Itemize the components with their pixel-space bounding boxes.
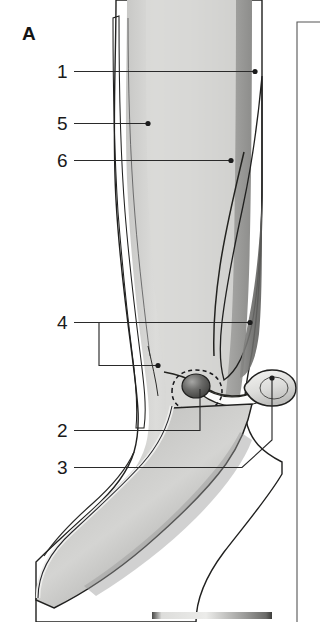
panel-letter-a: A — [22, 23, 36, 44]
leader-dot-3 — [269, 375, 274, 380]
leader-dot-6 — [228, 158, 233, 163]
leader-dot-1 — [252, 69, 257, 74]
leader-dot-4-lower — [155, 363, 160, 368]
callout-number-5[interactable]: 5 — [57, 113, 68, 134]
forearm-segment — [36, 404, 252, 608]
callout-number-3[interactable]: 3 — [57, 457, 68, 478]
next-panel-top-edge — [152, 612, 272, 619]
adjacent-panel-border — [297, 22, 320, 622]
anatomical-illustration: A 1 5 6 4 2 3 — [0, 0, 320, 622]
callout-number-1[interactable]: 1 — [57, 61, 68, 82]
label-group: A 1 5 6 4 2 3 — [22, 23, 68, 478]
leader-dot-4-upper — [247, 320, 252, 325]
leader-dot-5 — [145, 121, 150, 126]
callout-number-4[interactable]: 4 — [57, 312, 68, 333]
callout-number-6[interactable]: 6 — [57, 150, 68, 171]
anatomy-group — [36, 0, 296, 622]
bursa-body — [182, 374, 210, 398]
callout-number-2[interactable]: 2 — [57, 420, 68, 441]
figure-panel-a: A 1 5 6 4 2 3 — [0, 0, 320, 622]
